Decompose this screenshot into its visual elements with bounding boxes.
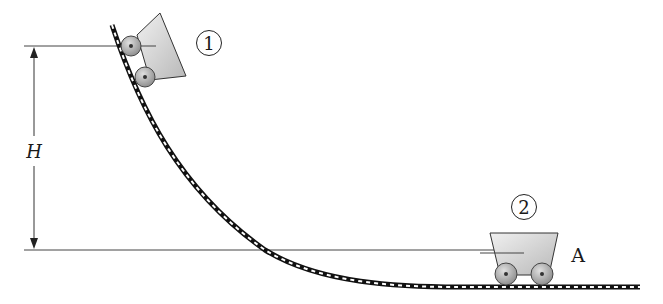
svg-text:2: 2 bbox=[518, 197, 529, 218]
arrow-up-icon bbox=[30, 47, 38, 58]
state-2-marker: 2 bbox=[512, 195, 537, 220]
svg-text:1: 1 bbox=[203, 33, 214, 54]
height-label: H bbox=[25, 141, 42, 162]
cart-2 bbox=[480, 233, 558, 285]
point-a-label: A bbox=[570, 244, 585, 266]
arrow-down-icon bbox=[30, 238, 38, 249]
state-1-marker: 1 bbox=[197, 31, 222, 56]
roller-coaster-diagram: H 1 2 A bbox=[0, 0, 663, 304]
track bbox=[112, 25, 640, 287]
